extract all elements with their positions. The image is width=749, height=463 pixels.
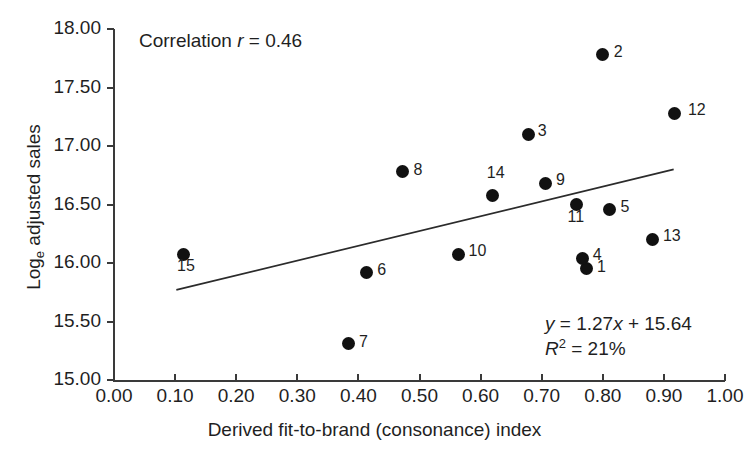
correlation-annotation: Correlation r = 0.46 [139, 30, 302, 52]
regression-line [0, 0, 749, 463]
equation-intercept-text: + 15.64 [623, 313, 692, 334]
equation-annotation: y = 1.27x + 15.64 R2 = 21% [545, 312, 692, 362]
correlation-value: = 0.46 [244, 30, 303, 51]
r-squared-line: R2 = 21% [545, 336, 692, 362]
correlation-prefix: Correlation [139, 30, 237, 51]
r-squared-exponent: 2 [559, 336, 566, 351]
equation-slope-text: = 1.27 [555, 313, 614, 334]
scatter-plot-figure: 0.000.100.200.300.400.500.600.700.800.90… [0, 0, 749, 463]
equation-y-variable: y [545, 313, 555, 334]
r-squared-symbol: R [545, 339, 559, 360]
r-squared-value: = 21% [566, 339, 626, 360]
equation-line: y = 1.27x + 15.64 [545, 312, 692, 336]
equation-x-variable: x [613, 313, 623, 334]
